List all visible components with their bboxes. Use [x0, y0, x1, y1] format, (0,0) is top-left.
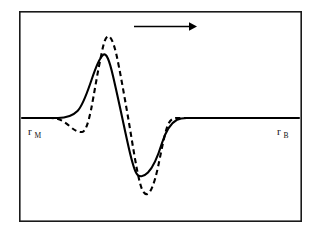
axis-label-left: r M: [28, 125, 42, 140]
direction-arrow: [134, 22, 197, 31]
label-r-m-base: r: [28, 125, 32, 137]
waveform-figure: r M r B: [0, 0, 318, 235]
solid-curve: [22, 54, 299, 176]
arrow-head: [189, 22, 197, 31]
label-r-b-base: r: [277, 125, 281, 137]
label-r-m-subscript: M: [35, 131, 42, 140]
axis-label-right: r B: [277, 125, 289, 140]
figure-container: r M r B: [0, 0, 318, 235]
dashed-curve: [22, 36, 188, 194]
plot-border: [20, 12, 301, 221]
label-r-b-subscript: B: [284, 131, 289, 140]
